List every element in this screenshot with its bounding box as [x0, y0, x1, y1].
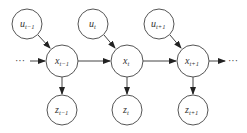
node-z-t-plus-1: zt+1: [178, 95, 208, 125]
edge-u-t-plus-1-to-x-t-plus-1: [170, 35, 181, 48]
node-x-t-minus-1: xt−1: [46, 45, 78, 77]
node-u-t-minus-1: ut−1: [12, 9, 42, 39]
node-u-t: ut: [78, 9, 108, 39]
node-x-t: xt: [111, 45, 143, 77]
dbn-diagram: ··· ··· ut−1 ut ut+1 xt−1 xt xt+1 zt−1 z…: [0, 0, 247, 133]
node-z-t-minus-1: zt−1: [47, 95, 77, 125]
edge-u-t-to-x-t: [104, 35, 115, 48]
node-u-t-plus-1: ut+1: [144, 9, 174, 39]
node-z-t: zt: [112, 95, 142, 125]
ellipsis-right: ···: [228, 55, 238, 66]
node-x-t-plus-1: xt+1: [177, 45, 209, 77]
ellipsis-left: ···: [15, 55, 25, 66]
edge-u-t-minus-1-to-x-t-minus-1: [38, 35, 50, 48]
